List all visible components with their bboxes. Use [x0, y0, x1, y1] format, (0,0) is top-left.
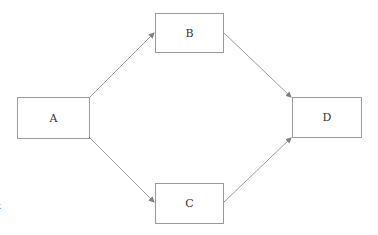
node-b-label: B: [185, 27, 193, 40]
node-d-label: D: [323, 111, 332, 124]
edge-b-to-d: [223, 32, 291, 97]
node-d[interactable]: D: [292, 97, 362, 138]
clipped-glyph: x: [0, 200, 1, 211]
node-c[interactable]: C: [155, 183, 224, 224]
node-a[interactable]: A: [17, 97, 90, 139]
node-a-label: A: [50, 112, 58, 125]
node-c-label: C: [185, 197, 193, 210]
edge-a-to-c: [89, 137, 154, 202]
diagram-canvas: A B C D x: [0, 0, 378, 235]
edge-a-to-b: [89, 33, 154, 98]
node-b[interactable]: B: [155, 13, 224, 53]
edge-c-to-d: [223, 138, 291, 203]
